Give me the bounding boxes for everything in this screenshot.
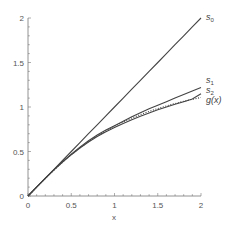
line-chart: 00.511.5200.511.52 s0s1s2g(x) x [0,0,230,231]
y-tick-label: 0 [20,192,25,201]
x-tick-label: 1 [112,201,117,210]
axes: 00.511.5200.511.52 [13,14,204,210]
series-s2-line [28,94,201,196]
x-tick-label: 1.5 [152,201,164,210]
series-labels: s0s1s2g(x) [206,12,222,105]
series-gx-line [28,98,201,197]
series-s1-line [28,87,201,196]
y-tick-label: 2 [20,14,25,23]
y-tick-label: 0.5 [13,148,25,157]
series-lines [28,18,201,196]
x-tick-label: 0 [26,201,31,210]
series-label-gx: g(x) [206,95,222,105]
series-label-s0: s0 [206,12,215,23]
y-tick-label: 1.5 [13,59,25,68]
x-axis-label: x [112,213,116,222]
y-tick-label: 1 [20,103,25,112]
x-tick-label: 0.5 [66,201,78,210]
x-tick-label: 2 [199,201,204,210]
